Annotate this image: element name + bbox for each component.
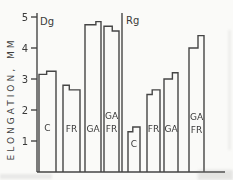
bar-label: GA xyxy=(164,124,178,134)
y-tick-label: 4 xyxy=(22,43,28,54)
bar-label: GA xyxy=(190,112,204,122)
chart-plot-area: 12345CFRGAGAFRCFRGAGAFR xyxy=(0,0,233,180)
bar-label: GA xyxy=(86,124,100,134)
bar-label: FR xyxy=(191,125,202,135)
bar-outline xyxy=(164,73,178,172)
bar-outline xyxy=(189,36,204,172)
bar-label: GA xyxy=(105,111,119,121)
y-tick-label: 5 xyxy=(22,12,28,23)
bar-outline xyxy=(128,127,140,172)
y-axis-title: ELONGATION, MM xyxy=(6,38,16,161)
bar-outline xyxy=(39,71,56,172)
bar-outline xyxy=(85,22,101,172)
elongation-bar-chart-figure: 12345CFRGAGAFRCFRGAGAFR ELONGATION, MM D… xyxy=(0,0,233,180)
y-tick-label: 2 xyxy=(22,105,28,116)
bar-label: FR xyxy=(148,124,159,134)
panel-label-rg: Rg xyxy=(126,15,139,26)
bar-label: FR xyxy=(66,124,77,134)
bar-label: FR xyxy=(106,124,117,134)
bar-label: C xyxy=(131,139,137,149)
y-tick-label: 3 xyxy=(22,74,28,85)
panel-label-dg: Dg xyxy=(40,16,54,27)
bar-outline xyxy=(104,26,119,172)
bar-label: C xyxy=(44,123,50,133)
y-tick-label: 1 xyxy=(22,136,28,147)
